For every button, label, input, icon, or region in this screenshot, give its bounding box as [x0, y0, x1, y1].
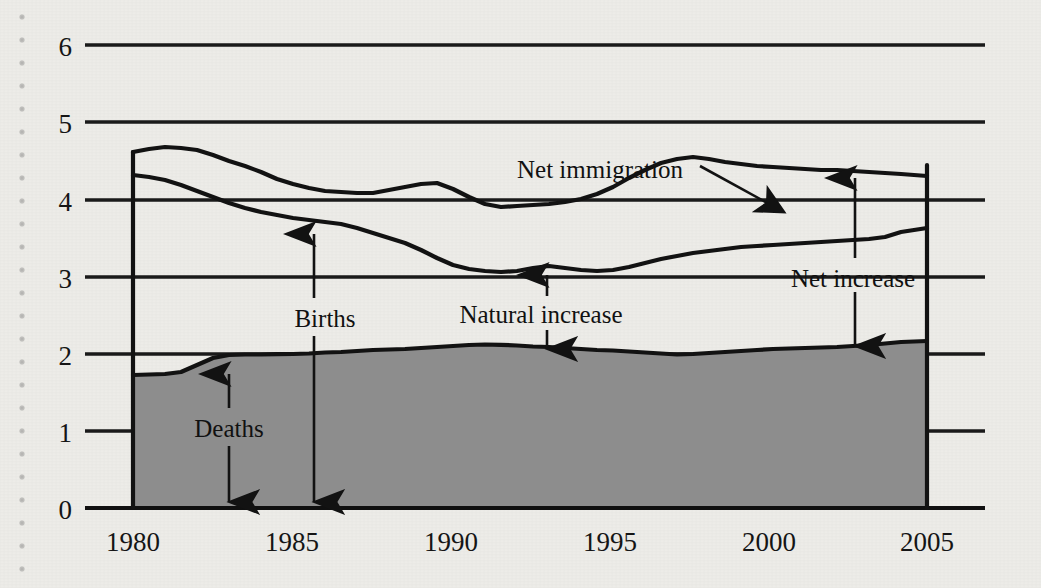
natural-increase-label: Natural increase [459, 301, 622, 328]
y-tick-label-3: 3 [59, 264, 73, 294]
annotation-net-increase: Net increase [791, 178, 915, 346]
annotation-natural-increase: Natural increase [459, 275, 622, 349]
y-tick-label-4: 4 [59, 187, 73, 217]
x-tick-label-1980: 1980 [106, 527, 160, 557]
y-tick-label-6: 6 [59, 32, 73, 62]
x-tick-label-1995: 1995 [583, 527, 637, 557]
births-label: Births [294, 305, 355, 332]
figure-page: 6 5 4 3 2 1 0 1980 1985 1990 1995 2000 2… [0, 0, 1041, 588]
net-immigration-pointer [700, 166, 782, 211]
y-tick-label-1: 1 [59, 418, 73, 448]
y-tick-label-0: 0 [59, 495, 73, 525]
population-change-area-chart: 6 5 4 3 2 1 0 1980 1985 1990 1995 2000 2… [0, 0, 1041, 588]
net-immigration-label: Net immigration [517, 156, 683, 183]
y-tick-label-2: 2 [59, 341, 73, 371]
y-tick-label-5: 5 [59, 109, 73, 139]
x-tick-label-1990: 1990 [424, 527, 478, 557]
x-tick-label-2005: 2005 [900, 527, 954, 557]
births-curve [133, 175, 927, 272]
x-tick-label-1985: 1985 [265, 527, 319, 557]
deaths-label: Deaths [194, 415, 263, 442]
x-axis: 1980 1985 1990 1995 2000 2005 [106, 527, 954, 557]
net-increase-label: Net increase [791, 265, 915, 292]
y-axis: 6 5 4 3 2 1 0 [59, 32, 73, 525]
x-tick-label-2000: 2000 [742, 527, 796, 557]
